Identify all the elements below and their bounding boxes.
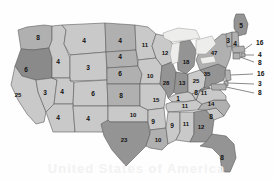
state-value-oh: 25	[193, 78, 200, 84]
leader-nj	[231, 74, 253, 75]
state-value-wa: 8	[36, 34, 40, 41]
state-value-nc: 14	[208, 101, 215, 107]
state-value-in: 13	[179, 80, 186, 86]
callout-value-ri: 4	[258, 51, 262, 58]
state-value-il: 28	[163, 80, 170, 86]
state-value-ut: 4	[60, 88, 64, 95]
us-choropleth-map: 8625344346444468102311101591012281813251…	[0, 0, 273, 180]
state-value-nh: 4	[233, 40, 237, 47]
state-ma[interactable]	[232, 46, 245, 53]
state-value-ky: 1	[176, 95, 180, 102]
state-value-wy: 3	[86, 64, 90, 71]
state-value-ne: 6	[118, 70, 122, 77]
leader-ct	[240, 57, 254, 62]
state-value-az: 4	[56, 114, 60, 121]
state-value-tn: 11	[182, 103, 189, 109]
state-az[interactable]	[46, 104, 75, 132]
callout-value-ct: 8	[258, 59, 262, 66]
state-value-ms: 9	[170, 122, 174, 129]
leader-ma	[245, 44, 252, 49]
state-value-ks: 8	[119, 92, 123, 99]
state-value-ga: 12	[198, 124, 205, 130]
map-svg: 8625344346444468102311101591012281813251…	[0, 0, 273, 180]
state-value-co: 6	[91, 90, 95, 97]
state-ks[interactable]	[107, 84, 140, 106]
state-ok[interactable]	[108, 106, 148, 122]
state-value-or: 6	[24, 66, 28, 73]
callout-value-labels: 16481638	[256, 39, 265, 96]
state-value-ny: 47	[211, 50, 218, 56]
leader-md	[226, 87, 254, 93]
state-value-wv: 8	[194, 89, 198, 96]
callout-value-nj: 16	[257, 70, 265, 77]
state-value-ok: 10	[130, 112, 137, 118]
state-value-mn: 11	[142, 42, 149, 48]
state-value-me: 5	[239, 22, 243, 29]
lake-superior	[163, 28, 200, 42]
state-md[interactable]	[211, 84, 226, 90]
callout-value-de: 3	[258, 80, 262, 87]
state-value-ar: 9	[151, 118, 155, 125]
state-value-ia: 10	[147, 73, 154, 79]
state-value-pa: 35	[204, 71, 211, 77]
state-ia[interactable]	[138, 58, 162, 84]
state-value-ca: 25	[15, 92, 22, 98]
state-value-vt: 3	[226, 37, 230, 44]
state-nj[interactable]	[225, 70, 231, 81]
state-value-mi: 18	[183, 59, 190, 65]
state-ne[interactable]	[107, 66, 142, 84]
state-value-mo: 15	[153, 97, 160, 103]
state-tx[interactable]	[101, 120, 150, 166]
state-value-nm: 4	[86, 115, 90, 122]
leader-de	[228, 83, 254, 84]
state-value-nd: 4	[118, 37, 122, 44]
state-value-nv: 3	[43, 89, 47, 96]
state-value-tx: 23	[121, 137, 128, 143]
state-value-id: 4	[56, 58, 60, 65]
state-value-sd: 4	[118, 53, 122, 60]
state-value-sc: 8	[209, 113, 213, 120]
callout-value-md: 8	[258, 89, 262, 96]
state-value-fl: 8	[220, 154, 224, 161]
state-value-al: 11	[183, 121, 190, 127]
state-ct[interactable]	[233, 53, 240, 59]
state-sd[interactable]	[106, 50, 138, 68]
state-value-wi: 12	[162, 50, 169, 56]
callout-value-ma: 16	[256, 39, 264, 46]
state-value-la: 10	[155, 137, 162, 143]
state-wa[interactable]	[18, 25, 52, 50]
state-value-va: 11	[201, 90, 208, 96]
state-value-mt: 4	[82, 37, 86, 44]
state-ri[interactable]	[241, 53, 245, 57]
